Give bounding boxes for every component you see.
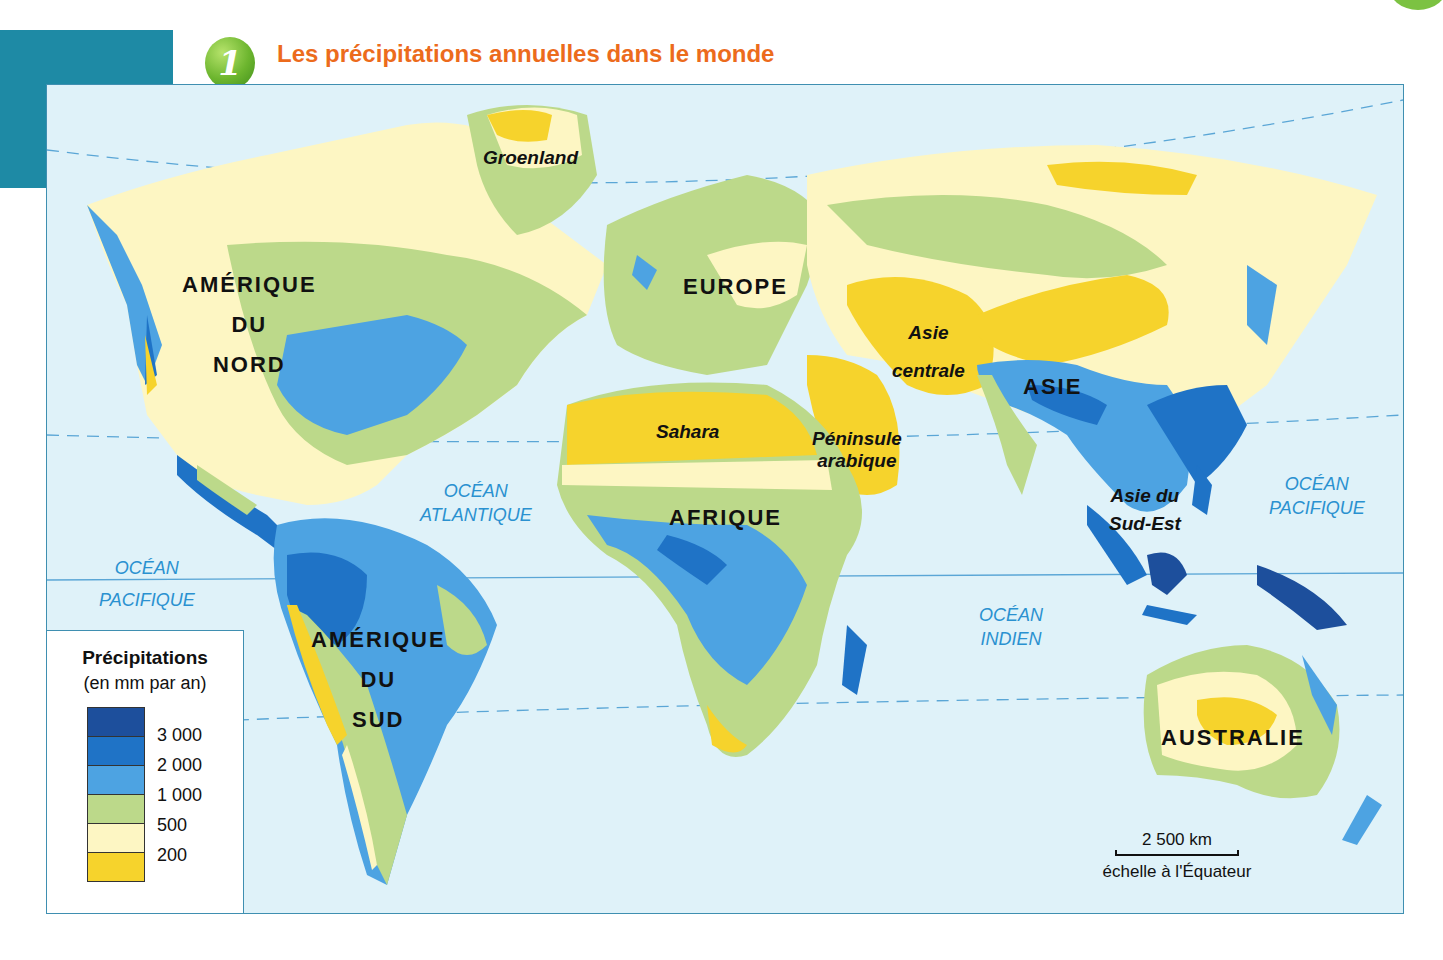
label-line: OCÉAN (99, 552, 195, 584)
legend-swatch-over-3000 (87, 707, 145, 737)
legend-tick: 2 000 (157, 755, 202, 776)
label-ocean-pacifique-ouest: OCÉAN PACIFIQUE (99, 552, 195, 616)
legend-swatch-2000-3000 (87, 736, 145, 766)
label-line: PACIFIQUE (1269, 496, 1365, 520)
label-line: OCÉAN (420, 479, 532, 503)
label-ocean-atlantique: OCÉAN ATLANTIQUE (420, 479, 532, 527)
label-peninsule-arabique: Péninsule arabique (812, 428, 902, 472)
legend: Précipitations (en mm par an) 3 000 2 00… (47, 630, 244, 913)
label-line: centrale (892, 352, 965, 390)
legend-swatch-1000-2000 (87, 765, 145, 795)
label-amerique-du-nord: AMÉRIQUE DU NORD (182, 265, 317, 385)
label-sahara: Sahara (656, 421, 719, 443)
legend-subtitle: (en mm par an) (47, 673, 243, 694)
label-europe: EUROPE (683, 267, 788, 307)
label-line: Asie du (1109, 482, 1181, 510)
legend-swatch-500-1000 (87, 794, 145, 824)
label-line: NORD (182, 345, 317, 385)
label-amerique-du-sud: AMÉRIQUE DU SUD (311, 620, 446, 740)
label-line: Péninsule (812, 428, 902, 450)
label-asie: ASIE (1023, 367, 1082, 407)
label-line: ATLANTIQUE (420, 503, 532, 527)
label-groenland: Groenland (483, 147, 578, 169)
scale-bar: 2 500 km échelle à l'Équateur (1092, 830, 1262, 882)
scale-caption: échelle à l'Équateur (1092, 862, 1262, 882)
label-line: OCÉAN (979, 603, 1043, 627)
decorative-corner-circle (1388, 0, 1443, 10)
label-line: SUD (311, 700, 446, 740)
label-line: AMÉRIQUE (311, 620, 446, 660)
label-ocean-indien: OCÉAN INDIEN (979, 603, 1043, 651)
legend-tick: 500 (157, 815, 187, 836)
legend-title: Précipitations (47, 647, 243, 669)
label-australie: AUSTRALIE (1161, 718, 1305, 758)
label-line: DU (311, 660, 446, 700)
legend-tick: 1 000 (157, 785, 202, 806)
label-line: Sud-Est (1109, 510, 1181, 538)
label-line: DU (182, 305, 317, 345)
legend-swatch-under-200 (87, 852, 145, 882)
legend-swatch-200-500 (87, 823, 145, 853)
label-line: OCÉAN (1269, 472, 1365, 496)
label-line: PACIFIQUE (99, 584, 195, 616)
label-ocean-pacifique-est: OCÉAN PACIFIQUE (1269, 472, 1365, 520)
legend-tick: 200 (157, 845, 187, 866)
label-afrique: AFRIQUE (669, 498, 782, 538)
scale-line (1115, 854, 1239, 856)
page-title: Les précipitations annuelles dans le mon… (277, 40, 774, 68)
label-line: AMÉRIQUE (182, 265, 317, 305)
world-precipitation-map: AMÉRIQUE DU NORD AMÉRIQUE DU SUD EUROPE … (46, 84, 1404, 914)
legend-tick: 3 000 (157, 725, 202, 746)
figure-number: 1 (218, 43, 242, 83)
figure-number-badge: 1 (205, 37, 255, 89)
scale-distance: 2 500 km (1092, 830, 1262, 850)
label-line: arabique (812, 450, 902, 472)
label-asie-centrale: Asie centrale (892, 314, 965, 390)
label-asie-du-sud-est: Asie du Sud-Est (1109, 482, 1181, 538)
label-line: INDIEN (979, 627, 1043, 651)
label-line: Asie (892, 314, 965, 352)
